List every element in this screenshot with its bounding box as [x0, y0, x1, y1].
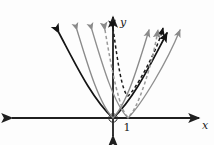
- parabola-figure: x y 1: [0, 0, 214, 145]
- x-axis-label: x: [202, 119, 209, 132]
- labels-group: x y 1: [119, 16, 209, 134]
- coordinate-plane-svg: x y 1: [0, 0, 214, 145]
- y-axis-label: y: [119, 16, 127, 29]
- x-tick-label-1: 1: [124, 121, 131, 134]
- axes-group: [12, 17, 199, 136]
- curves-group: [59, 28, 180, 118]
